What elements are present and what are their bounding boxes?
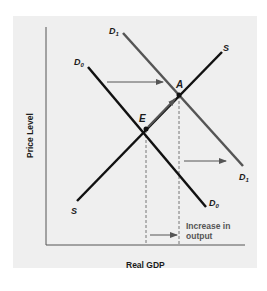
d1-top-sub: 1 xyxy=(116,31,120,37)
d0-top-sub: 0 xyxy=(81,62,85,68)
d0-bottom-sub: 0 xyxy=(216,203,220,209)
d0-label-top: D0 xyxy=(74,57,85,68)
movement-arrow-e-to-a xyxy=(148,99,175,127)
d1-label-bottom: D1 xyxy=(239,172,250,183)
y-axis-label: Price Level xyxy=(25,113,35,158)
point-e xyxy=(144,127,149,132)
d1-bottom-sub: 1 xyxy=(246,177,250,183)
d0-label-bottom: D0 xyxy=(209,198,220,209)
point-a-label: A xyxy=(175,79,183,90)
x-axis-label: Real GDP xyxy=(126,260,165,270)
supply-label-top: S xyxy=(223,43,229,53)
point-a xyxy=(177,93,182,98)
d1-label-top: D1 xyxy=(109,26,120,37)
annotation-line2: output xyxy=(186,231,213,241)
annotation-line1: Increase in xyxy=(186,221,230,231)
point-e-label: E xyxy=(139,113,146,124)
supply-label-bottom: S xyxy=(71,206,77,216)
ad-as-diagram: E A S S D0 D0 D1 D1 Increase in output R… xyxy=(0,0,267,291)
